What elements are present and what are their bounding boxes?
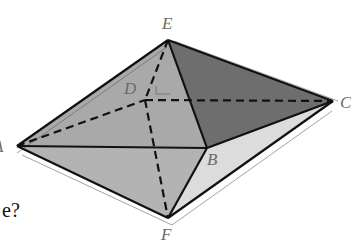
vertex-label-A: A: [0, 138, 3, 155]
vertex-label-D: D: [124, 80, 136, 97]
vertex-label-C: C: [340, 94, 351, 111]
vertex-label-F: F: [161, 226, 171, 240]
partial-question-text: e?: [2, 200, 20, 220]
vertex-label-B: B: [207, 151, 217, 168]
edge-DC: [145, 100, 333, 101]
vertex-label-E: E: [162, 15, 172, 32]
